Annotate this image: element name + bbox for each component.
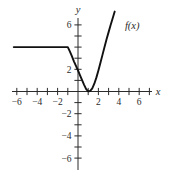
axes-group: [12, 18, 152, 170]
function-curve: [14, 12, 115, 92]
y-tick-label: 6: [67, 20, 72, 30]
y-tick-label: −6: [61, 154, 71, 164]
function-name-label: f(x): [125, 20, 140, 32]
y-axis-label: y: [75, 4, 81, 15]
x-axis-tick-labels: −6−4−2246: [12, 97, 142, 107]
x-tick-label: 4: [116, 97, 121, 107]
x-tick-label: 2: [96, 97, 101, 107]
y-tick-label: −2: [61, 109, 71, 119]
x-tick-label: −2: [53, 97, 63, 107]
x-tick-label: 6: [137, 97, 142, 107]
function-graph-figure: −6−4−2246 62−2−4−6 x y f(x): [0, 0, 170, 178]
y-tick-label: −4: [61, 131, 71, 141]
x-axis-label: x: [155, 86, 161, 97]
y-tick-label: 2: [67, 65, 72, 75]
graph-canvas: −6−4−2246 62−2−4−6 x y f(x): [0, 0, 170, 178]
x-tick-label: −4: [32, 97, 42, 107]
x-tick-label: −6: [12, 97, 22, 107]
